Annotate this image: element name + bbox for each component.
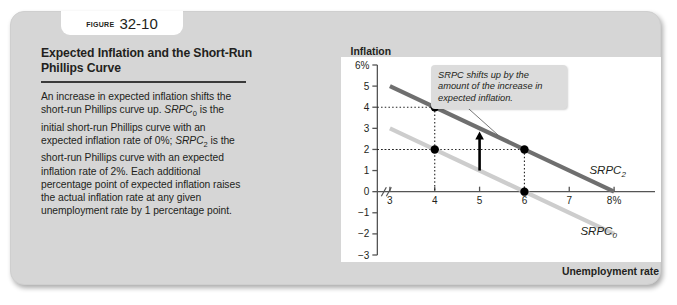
chart-region: Inflationrate 6%543210−1−2−3345678%SRPC2… — [331, 46, 661, 274]
data-point — [520, 145, 528, 153]
curve-label-srpc2: SRPC2 — [589, 164, 626, 179]
y-tick-label: −1 — [358, 207, 370, 218]
figure-caption: An increase in expected inflation shifts… — [41, 90, 249, 218]
title-divider — [41, 81, 246, 83]
x-tick-label: 4 — [432, 195, 438, 206]
figure-card: Figure 32-10 Expected Inflation and the … — [10, 11, 661, 285]
y-tick-label: 2 — [364, 144, 370, 155]
y-tick-label: 0 — [364, 186, 370, 197]
shift-arrow-head — [475, 132, 484, 140]
y-tick-label: 1 — [364, 165, 370, 176]
x-tick-label: 6 — [522, 195, 528, 206]
x-axis-title: Unemployment rate — [562, 266, 659, 277]
x-tick-label: 3 — [387, 195, 393, 206]
figure-title: Expected Inflation and the Short-Run Phi… — [41, 46, 255, 75]
y-tick-label: 4 — [364, 102, 370, 113]
y-tick-label: −2 — [358, 228, 370, 239]
y-tick-label: 6% — [355, 60, 370, 71]
figure-label-word: Figure — [86, 18, 114, 29]
figure-number: 32-10 — [119, 15, 157, 32]
figure-number-tab: Figure 32-10 — [61, 11, 183, 35]
curve-label-srpc0: SRPC0 — [580, 225, 617, 240]
figure-text-panel: Expected Inflation and the Short-Run Phi… — [41, 46, 259, 218]
y-tick-label: −3 — [358, 250, 370, 261]
x-tick-label: 8% — [607, 195, 622, 206]
data-point — [431, 145, 439, 153]
y-tick-label: 3 — [364, 123, 370, 134]
y-tick-label: 5 — [364, 81, 370, 92]
x-tick-label: 7 — [566, 195, 572, 206]
curve-SRPC0 — [390, 128, 614, 234]
x-tick-label: 5 — [477, 195, 483, 206]
annotation-callout: SRPC shifts up by the amount of the incr… — [431, 65, 567, 109]
figure-screenshot: Figure 32-10 Expected Inflation and the … — [0, 0, 677, 305]
data-point — [520, 187, 528, 195]
